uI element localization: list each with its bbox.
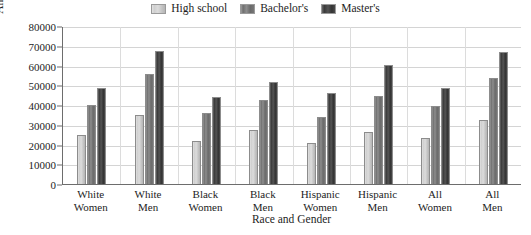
y-tick-label: 0 xyxy=(51,180,57,191)
bar xyxy=(364,132,373,184)
legend-item-0: High school xyxy=(151,3,227,15)
bar xyxy=(317,117,326,184)
legend-label: High school xyxy=(171,3,227,15)
bar xyxy=(327,93,336,184)
y-tick-label: 40000 xyxy=(29,101,57,112)
bar xyxy=(135,115,144,184)
y-tick-label: 80000 xyxy=(29,22,57,33)
bar xyxy=(499,52,508,184)
plot-area xyxy=(62,27,521,185)
bar-group xyxy=(235,27,292,184)
bar xyxy=(489,78,498,184)
bar-chart: High schoolBachelor'sMaster's Annual Ear… xyxy=(0,0,531,235)
x-axis-ticks: WhiteWomenWhiteMenBlackWomenBlackMenHisp… xyxy=(62,188,521,214)
x-tick-label: HispanicMen xyxy=(349,188,406,213)
x-tick-label: AllMen xyxy=(464,188,521,213)
bar xyxy=(155,51,164,184)
bar xyxy=(374,96,383,184)
y-tick-label: 60000 xyxy=(29,61,57,72)
bar xyxy=(145,74,154,184)
bar xyxy=(431,106,440,184)
bar xyxy=(77,135,86,184)
bar xyxy=(249,130,258,184)
legend-label: Master's xyxy=(341,3,379,15)
y-axis-ticks: 0100002000030000400005000060000700008000… xyxy=(0,27,62,185)
x-tick-label: BlackMen xyxy=(234,188,291,213)
y-tick-label: 10000 xyxy=(29,160,57,171)
x-tick-label: HispanicWomen xyxy=(292,188,349,213)
bar xyxy=(192,141,201,184)
bar xyxy=(202,113,211,184)
bar-group xyxy=(465,27,522,184)
bar xyxy=(97,88,106,184)
bar xyxy=(479,120,488,184)
bar xyxy=(269,82,278,184)
bar xyxy=(307,143,316,184)
bar xyxy=(441,88,450,184)
bar-group xyxy=(350,27,407,184)
bar xyxy=(212,97,221,184)
legend-label: Bachelor's xyxy=(260,3,308,15)
legend-swatch-icon xyxy=(151,4,166,14)
legend-item-1: Bachelor's xyxy=(240,3,308,15)
bar-group xyxy=(120,27,177,184)
x-tick-label: AllWomen xyxy=(406,188,463,213)
bar-group xyxy=(178,27,235,184)
bar xyxy=(421,138,430,184)
x-axis-title: Race and Gender xyxy=(62,214,521,226)
bar-group xyxy=(63,27,120,184)
bar xyxy=(384,65,393,184)
x-tick-label: WhiteMen xyxy=(119,188,176,213)
x-tick-label: WhiteWomen xyxy=(62,188,119,213)
bar xyxy=(259,100,268,184)
y-tick-label: 20000 xyxy=(29,140,57,151)
y-tick-label: 50000 xyxy=(29,81,57,92)
legend-swatch-icon xyxy=(321,4,336,14)
x-tick-label: BlackWomen xyxy=(177,188,234,213)
bar-group xyxy=(407,27,464,184)
y-tick-label: 30000 xyxy=(29,120,57,131)
legend-swatch-icon xyxy=(240,4,255,14)
bar-group xyxy=(293,27,350,184)
y-tick-label: 70000 xyxy=(29,41,57,52)
chart-legend: High schoolBachelor'sMaster's xyxy=(0,1,531,17)
legend-item-2: Master's xyxy=(321,3,379,15)
bar xyxy=(87,105,96,184)
